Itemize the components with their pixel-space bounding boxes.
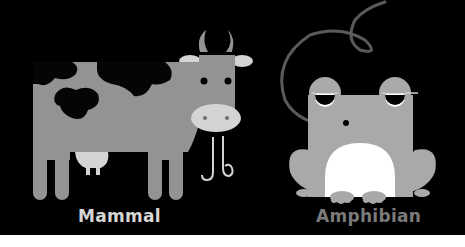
frog-illustration [282, 2, 436, 204]
frog-mouth [343, 120, 349, 126]
cow-horn-right [226, 30, 233, 52]
frog-hand-left [330, 191, 354, 204]
cow-nostril-right [225, 116, 229, 120]
animal-illustration [0, 0, 465, 235]
mammal-label: Mammal [78, 206, 161, 226]
frog-hand-right [362, 191, 386, 204]
cow-illustration [33, 30, 253, 200]
cow-muzzle [191, 104, 241, 132]
cow-udder-front [75, 152, 108, 175]
frog-belly [325, 143, 395, 197]
cow-drool-left [202, 137, 213, 180]
frog-foot-right [414, 189, 430, 197]
cow-eye-right [225, 78, 232, 85]
amphibian-label: Amphibian [316, 206, 421, 226]
cow-nostril-left [203, 116, 207, 120]
cow-drool-right [223, 136, 233, 176]
cow-horn-left [199, 30, 208, 52]
cow-eye-left [201, 78, 208, 85]
